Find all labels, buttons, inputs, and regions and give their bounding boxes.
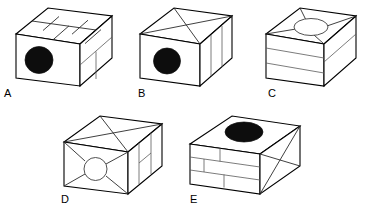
figure-d-label: D: [61, 194, 69, 205]
figure-sheet: A B: [0, 0, 365, 214]
figure-b: B: [130, 4, 238, 90]
figure-c-hole-icon: [294, 19, 328, 36]
figure-d-drawing: [58, 112, 170, 200]
figure-b-drawing: [130, 4, 238, 90]
figure-a-hole-icon: [25, 47, 53, 74]
figure-e-label: E: [190, 194, 197, 205]
figure-e-hole-icon: [225, 122, 263, 142]
figure-d: D: [58, 112, 170, 200]
figure-b-hole-icon: [154, 48, 181, 74]
figure-c: C: [256, 4, 362, 90]
figure-a-drawing: [4, 4, 116, 90]
figure-e-drawing: [184, 112, 308, 200]
figure-c-drawing: [256, 4, 362, 90]
figure-a-label: A: [4, 88, 11, 99]
figure-d-hole-icon: [84, 158, 107, 181]
figure-a: A: [4, 4, 116, 90]
figure-c-label: C: [268, 88, 276, 99]
figure-b-label: B: [138, 88, 145, 99]
figure-e: E: [184, 112, 308, 200]
